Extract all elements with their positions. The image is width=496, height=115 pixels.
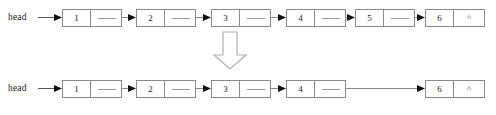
node-data-after-3: 3 — [212, 81, 240, 97]
node-data-after-6: 6 — [426, 81, 454, 97]
list-node-before-2: 2 — [136, 9, 196, 27]
node-next-after-3 — [240, 81, 270, 97]
node-data-before-3: 3 — [212, 10, 240, 26]
head-label-before: head — [8, 11, 42, 23]
node-null-pointer-before-6: ^ — [454, 10, 484, 26]
node-next-after-2 — [165, 81, 195, 97]
node-data-before-4: 4 — [287, 10, 315, 26]
node-data-before-5: 5 — [356, 10, 384, 26]
connector-head-to-node-1-after — [38, 84, 62, 93]
head-label-after: head — [8, 82, 42, 94]
list-node-after-1: 1 — [62, 80, 122, 98]
list-node-before-5: 5 — [355, 9, 415, 27]
node-next-before-1 — [91, 10, 121, 26]
node-data-before-6: 6 — [426, 10, 454, 26]
node-next-after-4 — [315, 81, 345, 97]
node-next-before-3 — [240, 10, 270, 26]
list-node-after-2: 2 — [136, 80, 196, 98]
node-data-after-1: 1 — [63, 81, 91, 97]
list-node-before-1: 1 — [62, 9, 122, 27]
list-node-before-6: 6 ^ — [425, 9, 485, 27]
list-node-after-6: 6 ^ — [425, 80, 485, 98]
linked-list-deletion-diagram: head — [0, 0, 496, 115]
arrow-down-block-icon — [212, 31, 248, 71]
node-data-before-2: 2 — [137, 10, 165, 26]
node-next-before-5 — [384, 10, 414, 26]
list-node-before-4: 4 — [286, 9, 346, 27]
node-data-after-2: 2 — [137, 81, 165, 97]
node-data-before-1: 1 — [63, 10, 91, 26]
node-null-pointer-after-6: ^ — [454, 81, 484, 97]
node-data-after-4: 4 — [287, 81, 315, 97]
linked-list-row-after: head — [0, 78, 496, 104]
list-node-before-3: 3 — [211, 9, 271, 27]
node-next-before-2 — [165, 10, 195, 26]
linked-list-row-before: head — [0, 7, 496, 33]
list-node-after-4: 4 — [286, 80, 346, 98]
node-next-after-1 — [91, 81, 121, 97]
connector-node-4-to-node-6-after — [334, 84, 425, 93]
connector-head-to-node-1-before — [38, 13, 62, 22]
node-next-before-4 — [315, 10, 345, 26]
list-node-after-3: 3 — [211, 80, 271, 98]
